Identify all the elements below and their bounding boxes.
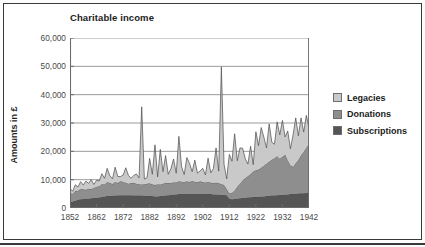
chart-legend: LegaciesDonationsSubscriptions — [333, 90, 419, 140]
x-tick-label: 1932 — [273, 212, 291, 222]
y-tick-label: 40,000 — [20, 90, 66, 100]
y-tick-label: 50,000 — [20, 61, 66, 71]
x-axis-tick-labels: 1852186218721882189219021912192219321942 — [70, 212, 309, 234]
plot-area — [70, 38, 309, 208]
x-tick-label: 1892 — [167, 212, 185, 222]
x-tick-label: 1912 — [220, 212, 238, 222]
x-tick-label: 1922 — [247, 212, 265, 222]
y-tick-label: 30,000 — [20, 118, 66, 128]
y-tick-label: 10,000 — [20, 175, 66, 185]
x-tick-label: 1852 — [61, 212, 79, 222]
legend-item-label: Donations — [347, 109, 391, 119]
legend-swatch-icon — [333, 93, 342, 102]
y-axis-tick-labels: 010,00020,00030,00040,00050,00060,000 — [17, 38, 66, 208]
chart-figure: Charitable income Amounts in £ 010,00020… — [0, 0, 425, 247]
legend-item-legacies[interactable]: Legacies — [333, 90, 419, 105]
stacked-area-chart — [70, 38, 309, 208]
y-tick-label: 0 — [20, 203, 66, 213]
figure-bottom-rule — [0, 243, 425, 245]
x-tick-label: 1862 — [87, 212, 105, 222]
y-tick-label: 60,000 — [20, 33, 66, 43]
legend-item-label: Legacies — [347, 93, 386, 103]
x-tick-label: 1902 — [194, 212, 212, 222]
x-tick-label: 1942 — [300, 212, 318, 222]
page-title: Charitable income — [70, 12, 154, 23]
legend-swatch-icon — [333, 126, 342, 135]
legend-item-donations[interactable]: Donations — [333, 107, 419, 122]
legend-item-subscriptions[interactable]: Subscriptions — [333, 123, 419, 138]
legend-item-label: Subscriptions — [347, 126, 407, 136]
y-tick-label: 20,000 — [20, 146, 66, 156]
legend-swatch-icon — [333, 110, 342, 119]
x-tick-label: 1872 — [114, 212, 132, 222]
x-tick-label: 1882 — [140, 212, 158, 222]
